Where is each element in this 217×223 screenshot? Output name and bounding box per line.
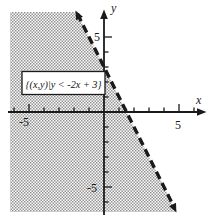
set-notation-box: {(x,y)|y < -2x + 3}	[22, 72, 105, 95]
x-axis-label: x	[195, 93, 202, 107]
set-notation-label: {(x,y)|y < -2x + 3}	[26, 78, 103, 91]
y-tick-label-pos5: 5	[94, 30, 100, 44]
x-tick-label-pos5: 5	[175, 118, 181, 132]
graph-figure: x 5 -5 y 5 -5 {(x,y)|y < -2x + 3}	[0, 0, 217, 223]
y-tick-label-neg5: -5	[87, 181, 97, 195]
y-axis-arrow-icon	[100, 10, 108, 20]
y-axis-label: y	[110, 1, 117, 15]
x-axis-arrow-icon	[197, 108, 207, 116]
inequality-graph: x 5 -5 y 5 -5 {(x,y)|y < -2x + 3}	[0, 0, 217, 223]
x-tick-label-neg5: -5	[19, 115, 29, 129]
